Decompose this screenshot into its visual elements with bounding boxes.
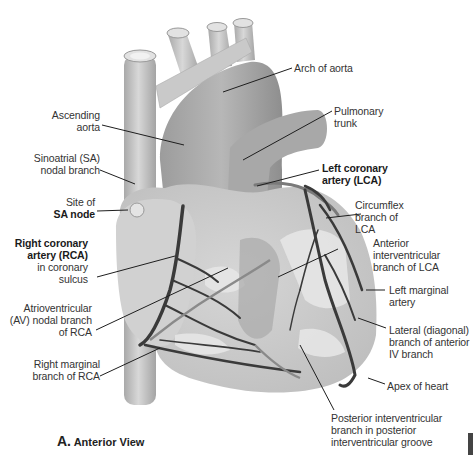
label-text: IV branch <box>389 348 470 360</box>
label-text: interventricular groove <box>331 436 442 448</box>
label-sa-nodal-branch: Sinoatrial (SA) nodal branch <box>20 152 100 176</box>
label-text: Apex of heart <box>387 380 448 392</box>
label-text: Arch of aorta <box>294 62 353 74</box>
label-text: branch of RCA <box>20 370 100 382</box>
label-anterior-interventricular: Anterior interventricular branch of LCA <box>373 237 440 273</box>
label-text: (AV) nodal branch <box>4 314 92 326</box>
label-text: Posterior interventricular <box>331 412 442 424</box>
label-text: Lateral (diagonal) <box>389 324 470 336</box>
label-text: artery (RCA) <box>10 249 88 261</box>
figure-caption: A. Anterior View <box>57 433 144 449</box>
label-text: branch of <box>355 211 404 223</box>
label-arch-of-aorta: Arch of aorta <box>294 62 353 74</box>
label-text: Left marginal <box>389 284 448 296</box>
label-text: SA node <box>40 208 95 220</box>
label-text: Right coronary <box>10 237 88 249</box>
label-text: trunk <box>334 117 383 129</box>
label-left-coronary-artery: Left coronary artery (LCA) <box>322 162 388 186</box>
label-pulmonary-trunk: Pulmonary trunk <box>334 105 383 129</box>
panel-letter: A. <box>57 433 71 449</box>
label-text: branch of anterior <box>389 336 470 348</box>
label-left-marginal-artery: Left marginal artery <box>389 284 448 308</box>
label-posterior-interventricular: Posterior interventricular branch in pos… <box>331 412 442 448</box>
label-text: Circumflex <box>355 199 404 211</box>
label-text: of RCA <box>4 326 92 338</box>
label-text: Atrioventricular <box>4 302 92 314</box>
label-text: artery (LCA) <box>322 174 388 186</box>
label-text: Site of <box>40 196 95 208</box>
label-ascending-aorta: Ascending aorta <box>48 109 100 133</box>
label-right-coronary-artery: Right coronary artery (RCA) in coronary … <box>10 237 88 285</box>
label-text: Sinoatrial (SA) <box>20 152 100 164</box>
label-site-of-sa-node: Site of SA node <box>40 196 95 220</box>
figure-title: Anterior View <box>74 436 145 448</box>
label-text: LCA <box>355 223 404 235</box>
label-lateral-diagonal-branch: Lateral (diagonal) branch of anterior IV… <box>389 324 470 360</box>
label-text: aorta <box>48 121 100 133</box>
label-text: in coronary <box>10 261 88 273</box>
page-edge-mark <box>468 433 473 455</box>
label-text: nodal branch <box>20 164 100 176</box>
label-text: sulcus <box>10 273 88 285</box>
label-circumflex-branch: Circumflex branch of LCA <box>355 199 404 235</box>
label-text: Ascending <box>48 109 100 121</box>
label-text: branch in posterior <box>331 424 442 436</box>
label-text: artery <box>389 296 448 308</box>
label-text: Left coronary <box>322 162 388 174</box>
label-right-marginal-branch: Right marginal branch of RCA <box>20 358 100 382</box>
label-text: Right marginal <box>20 358 100 370</box>
label-apex-of-heart: Apex of heart <box>387 380 448 392</box>
label-text: interventricular <box>373 249 440 261</box>
label-text: branch of LCA <box>373 261 440 273</box>
sa-node <box>130 203 144 217</box>
label-av-nodal-branch: Atrioventricular (AV) nodal branch of RC… <box>4 302 92 338</box>
label-text: Anterior <box>373 237 440 249</box>
label-text: Pulmonary <box>334 105 383 117</box>
